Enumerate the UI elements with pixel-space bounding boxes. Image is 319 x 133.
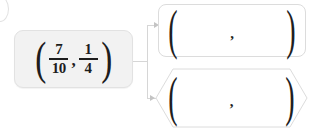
fraction-one-fourth: 1 4 bbox=[79, 42, 98, 77]
fraction-seven-tenths: 7 10 bbox=[49, 42, 68, 77]
fraction-denominator: 4 bbox=[84, 61, 93, 76]
connector-spine bbox=[147, 25, 148, 99]
open-paren-icon: ( bbox=[35, 41, 46, 77]
close-paren-icon: ) bbox=[101, 41, 112, 77]
hexagon-outline bbox=[155, 68, 308, 128]
close-paren-icon: ) bbox=[286, 9, 295, 52]
answer-comma: , bbox=[230, 25, 234, 42]
ordered-pair-expression: ( 7 10 , 1 4 ) bbox=[33, 41, 114, 77]
ordered-pair-source: ( 7 10 , 1 4 ) bbox=[14, 30, 133, 88]
fraction-numerator: 7 bbox=[54, 42, 63, 57]
answer-content: ( , ) bbox=[159, 5, 305, 56]
pair-comma: , bbox=[71, 51, 75, 71]
fraction-denominator: 10 bbox=[51, 61, 67, 76]
fraction-numerator: 1 bbox=[84, 42, 93, 57]
circle-icon bbox=[0, 0, 9, 22]
connector-stem bbox=[133, 61, 148, 62]
answer-box-rectangle[interactable]: ( , ) bbox=[158, 4, 306, 57]
answer-box-hexagon[interactable]: ( , ) bbox=[155, 68, 308, 128]
open-paren-icon: ( bbox=[168, 9, 177, 52]
diagram-canvas: ( 7 10 , 1 4 ) ( , ) bbox=[0, 0, 319, 133]
